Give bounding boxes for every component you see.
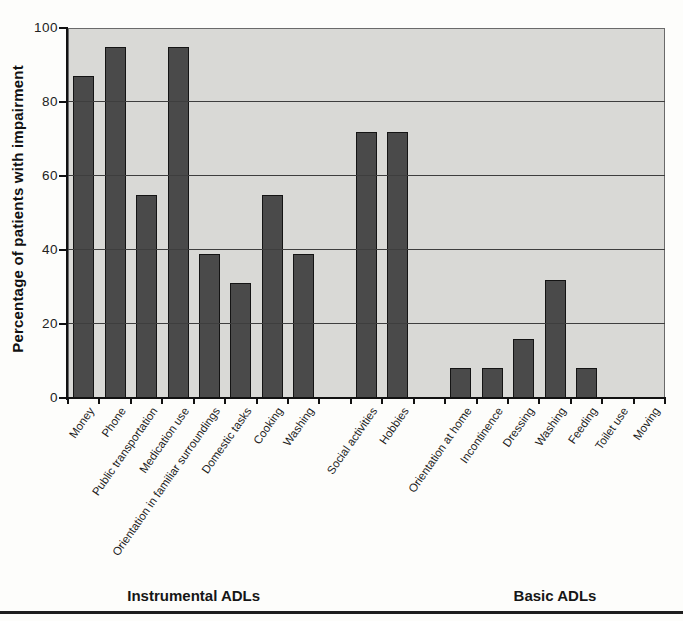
x-tick-label: Feeding bbox=[566, 405, 600, 446]
x-tick bbox=[538, 399, 540, 404]
x-tick bbox=[507, 399, 509, 404]
x-tick bbox=[224, 399, 226, 404]
y-tick bbox=[59, 397, 66, 399]
bar bbox=[262, 195, 283, 399]
bar bbox=[576, 368, 597, 398]
x-tick bbox=[130, 399, 132, 404]
y-tick-label: 60 bbox=[14, 168, 58, 183]
x-tick bbox=[350, 399, 352, 404]
y-tick bbox=[59, 27, 66, 29]
x-tick-label: Cooking bbox=[251, 405, 285, 446]
group-label-instrumental: Instrumental ADLs bbox=[127, 587, 260, 604]
bar bbox=[293, 254, 314, 398]
bar bbox=[356, 132, 377, 398]
y-tick bbox=[59, 249, 66, 251]
x-tick-label: Dressing bbox=[501, 405, 537, 449]
y-tick-label: 80 bbox=[14, 94, 58, 109]
y-tick bbox=[59, 323, 66, 325]
x-tick bbox=[601, 399, 603, 404]
x-tick-label: Moving bbox=[631, 405, 662, 442]
group-label-basic: Basic ADLs bbox=[514, 587, 597, 604]
x-tick-label: Phone bbox=[99, 405, 128, 439]
bar bbox=[73, 76, 94, 398]
x-tick bbox=[664, 399, 666, 404]
x-tick-label: Washing bbox=[281, 405, 316, 448]
x-tick bbox=[161, 399, 163, 404]
bar bbox=[450, 368, 471, 398]
bottom-rule bbox=[0, 611, 683, 614]
bar bbox=[199, 254, 220, 398]
x-tick bbox=[67, 399, 69, 404]
bar bbox=[482, 368, 503, 398]
y-tick-label: 40 bbox=[14, 242, 58, 257]
x-tick bbox=[318, 399, 320, 404]
x-tick-label: Hobbies bbox=[377, 405, 411, 446]
y-tick-label: 100 bbox=[14, 20, 58, 35]
bars-layer bbox=[68, 28, 665, 398]
bar bbox=[545, 280, 566, 398]
bar bbox=[105, 47, 126, 399]
x-tick-label: Washing bbox=[533, 405, 568, 448]
adl-impairment-figure: Percentage of patients with impairment 0… bbox=[0, 0, 683, 621]
x-tick bbox=[476, 399, 478, 404]
y-tick bbox=[59, 175, 66, 177]
x-axis-line bbox=[64, 397, 666, 399]
x-tick bbox=[98, 399, 100, 404]
x-tick bbox=[193, 399, 195, 404]
bar bbox=[387, 132, 408, 398]
x-tick bbox=[256, 399, 258, 404]
y-tick-label: 20 bbox=[14, 316, 58, 331]
x-tick-label: Money bbox=[67, 405, 97, 440]
x-tick-label: Social activities bbox=[324, 405, 379, 476]
x-tick bbox=[633, 399, 635, 404]
bar bbox=[230, 283, 251, 398]
y-axis-line bbox=[66, 27, 68, 400]
bar bbox=[168, 47, 189, 399]
x-tick bbox=[287, 399, 289, 404]
x-tick bbox=[381, 399, 383, 404]
bar bbox=[136, 195, 157, 399]
y-tick-label: 0 bbox=[14, 390, 58, 405]
x-tick bbox=[444, 399, 446, 404]
y-tick bbox=[59, 101, 66, 103]
bar bbox=[513, 339, 534, 398]
x-tick bbox=[570, 399, 572, 404]
x-tick bbox=[413, 399, 415, 404]
